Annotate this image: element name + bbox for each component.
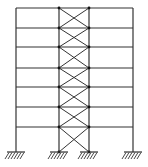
joint [88,67,91,70]
fixed-support-icon [122,152,142,159]
fixed-support-icon [78,152,98,159]
joint [58,46,61,49]
joint [88,126,91,129]
joint [88,27,91,30]
joint [88,86,91,89]
joint [58,126,61,129]
braced-frame-diagram [0,0,148,167]
fixed-support-icon [48,152,68,159]
joint [58,106,61,109]
joint [58,7,61,10]
joint [58,27,61,30]
joint [58,67,61,70]
joint [88,7,91,10]
joint [88,106,91,109]
fixed-support-icon [5,152,25,159]
joint [88,46,91,49]
joint [58,86,61,89]
